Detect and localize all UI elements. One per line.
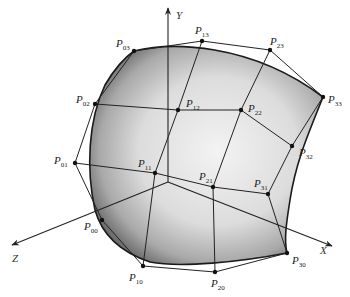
axis-label-z: Z: [12, 252, 19, 264]
label-p30: P30: [291, 254, 306, 269]
diagram-canvas: YZX P00P01P02P03P10P11P12P13P20P21P22P23…: [0, 0, 350, 297]
control-point-p31: [266, 192, 270, 196]
label-p10: P10: [128, 271, 143, 286]
label-p33: P33: [327, 93, 342, 108]
bezier-surface-patch: [90, 47, 323, 265]
label-p20: P20: [210, 277, 225, 292]
bezier-surface-diagram: YZX P00P01P02P03P10P11P12P13P20P21P22P23…: [0, 0, 350, 297]
label-p13: P13: [194, 24, 209, 39]
label-p23: P23: [269, 35, 284, 50]
control-point-p00: [100, 218, 104, 222]
control-point-p03: [132, 49, 136, 53]
label-p01: P01: [53, 154, 68, 169]
axis-label-y: Y: [176, 9, 184, 21]
control-point-p30: [285, 251, 289, 255]
control-point-p02: [93, 102, 97, 106]
control-point-p22: [239, 108, 243, 112]
control-point-p23: [268, 48, 272, 52]
control-point-p21: [211, 185, 215, 189]
control-point-p01: [73, 161, 77, 165]
axis-label-x: X: [319, 244, 328, 256]
label-p02: P02: [75, 93, 90, 108]
control-point-p11: [153, 171, 157, 175]
label-p00: P00: [83, 220, 98, 235]
control-point-p20: [213, 270, 217, 274]
control-point-p33: [321, 95, 325, 99]
control-point-p10: [141, 264, 145, 268]
control-point-p32: [290, 144, 294, 148]
label-p03: P03: [115, 37, 130, 52]
control-point-p13: [200, 39, 204, 43]
control-point-p12: [176, 108, 180, 112]
